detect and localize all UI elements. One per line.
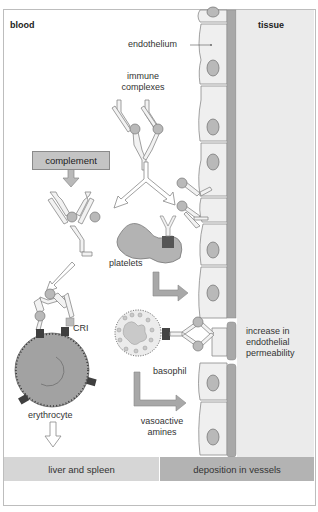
permeability-label: increase in endothelial permeability [246,326,295,359]
permeability-line1: increase in [246,326,295,337]
immune-complex-top [112,100,160,170]
footer-deposition-vessels: deposition in vessels [160,457,314,481]
basophil-label: basophil [153,366,187,377]
complement-box: complement [32,151,110,170]
immune-complexes-line2: complexes [118,82,168,93]
platelets-label: platelets [109,258,143,269]
immune-complexes-label: immune complexes [118,71,168,93]
vasoactive-amines-label: vasoactive amines [137,416,187,438]
erythrocyte-label: erythrocyte [28,410,73,421]
permeability-line3: permeability [246,348,295,359]
endothelium-label: endothelium [128,39,177,50]
blood-label: blood [10,20,35,31]
footer-liver-spleen: liver and spleen [4,457,159,481]
tissue-label: tissue [258,20,284,31]
vasoactive-line2: amines [137,427,187,438]
immune-complexes-line1: immune [118,71,168,82]
vasoactive-line1: vasoactive [137,416,187,427]
permeability-line2: endothelial [246,337,295,348]
cr1-label: CRI [73,323,89,334]
